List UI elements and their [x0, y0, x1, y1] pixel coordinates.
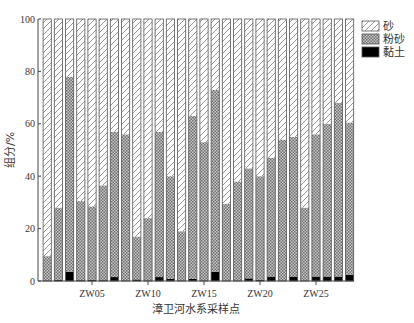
bar-ZW10 — [144, 19, 152, 281]
legend-label-sand: 砂 — [383, 20, 394, 33]
sand-segment — [222, 19, 230, 204]
bar-ZW09 — [133, 19, 141, 281]
bar-ZW23 — [290, 19, 298, 281]
bar-ZW18 — [234, 19, 242, 281]
sand-segment — [54, 19, 62, 208]
x-tick-label: ZW20 — [247, 288, 273, 299]
sand-segment — [323, 19, 331, 124]
legend-label-silt: 粉砂 — [383, 33, 405, 46]
bar-ZW17 — [222, 19, 230, 281]
sand-segment — [346, 19, 354, 122]
bar-ZW01 — [43, 19, 51, 281]
clay-segment — [290, 277, 298, 281]
y-tick-label: 60 — [25, 118, 35, 129]
x-tick-label: ZW15 — [191, 288, 217, 299]
sand-segment — [301, 19, 309, 208]
sand-segment — [122, 19, 130, 134]
sand-segment — [110, 19, 118, 132]
clay-segment — [334, 277, 342, 281]
bar-ZW22 — [278, 19, 286, 281]
sand-segment — [334, 19, 342, 103]
silt-segment — [222, 204, 230, 281]
silt-segment — [312, 134, 320, 276]
sand-segment — [155, 19, 163, 132]
sand-segment — [43, 19, 51, 256]
silt-segment — [278, 140, 286, 281]
bar-ZW15 — [200, 19, 208, 281]
silt-segment — [66, 77, 74, 272]
y-axis-title: 组分/% — [3, 132, 17, 168]
bar-ZW20 — [256, 19, 264, 281]
x-tick-label: ZW25 — [303, 288, 329, 299]
silt-segment — [178, 231, 186, 280]
silt-segment — [133, 236, 141, 279]
silt-segment — [200, 142, 208, 281]
clay-pattern-swatch — [362, 47, 379, 57]
silt-segment — [43, 256, 51, 281]
sand-segment — [211, 19, 219, 90]
silt-segment — [267, 158, 275, 277]
silt-segment — [234, 181, 242, 281]
legend: 砂 粉砂 黏土 — [362, 20, 405, 59]
bar-ZW06 — [99, 19, 107, 281]
sand-segment — [267, 19, 275, 158]
bar-ZW24 — [301, 19, 309, 281]
legend-item-silt: 粉砂 — [362, 33, 405, 46]
silt-segment — [211, 90, 219, 272]
silt-pattern-swatch — [362, 34, 379, 44]
silt-segment — [245, 168, 253, 278]
clay-segment — [312, 277, 320, 281]
bar-ZW27 — [334, 19, 342, 281]
bar-ZW13 — [178, 19, 186, 281]
silt-segment — [77, 201, 85, 280]
sand-segment — [166, 19, 174, 176]
x-tick-label: ZW10 — [135, 288, 161, 299]
silt-segment — [256, 176, 264, 279]
clay-segment — [110, 277, 118, 281]
silt-segment — [166, 176, 174, 279]
sand-segment — [256, 19, 264, 176]
x-tick-label: ZW05 — [79, 288, 105, 299]
clay-segment — [346, 275, 354, 281]
legend-item-sand: 砂 — [362, 20, 394, 33]
silt-segment — [189, 116, 197, 279]
sand-segment — [234, 19, 242, 181]
x-axis-title: 漳卫河水系采样点 — [152, 302, 240, 316]
silt-segment — [122, 134, 130, 281]
clay-segment — [66, 272, 74, 281]
bar-ZW08 — [122, 19, 130, 281]
sand-segment — [312, 19, 320, 134]
bar-ZW21 — [267, 19, 275, 281]
bar-ZW25 — [312, 19, 320, 281]
bar-ZW02 — [54, 19, 62, 281]
sand-pattern-swatch — [362, 21, 379, 31]
bar-ZW28 — [346, 19, 354, 281]
y-tick-label: 80 — [25, 66, 35, 77]
bar-ZW26 — [323, 19, 331, 281]
silt-segment — [346, 122, 354, 274]
silt-segment — [334, 103, 342, 277]
sand-segment — [77, 19, 85, 201]
bar-ZW05 — [88, 19, 96, 281]
silt-segment — [99, 185, 107, 280]
y-tick-label: 0 — [30, 276, 35, 287]
sand-segment — [133, 19, 141, 236]
silt-segment — [54, 208, 62, 280]
y-tick-label: 100 — [20, 14, 35, 25]
bar-ZW04 — [77, 19, 85, 281]
sand-segment — [178, 19, 186, 231]
plot-area: 020406080100ZW05ZW10ZW15ZW20ZW25 — [20, 14, 354, 300]
bar-ZW16 — [211, 19, 219, 281]
y-tick-label: 20 — [25, 223, 35, 234]
bar-ZW11 — [155, 19, 163, 281]
sand-segment — [245, 19, 253, 168]
silt-segment — [110, 132, 118, 277]
sand-segment — [99, 19, 107, 185]
sand-segment — [66, 19, 74, 77]
silt-segment — [88, 206, 96, 279]
silt-segment — [301, 208, 309, 281]
bar-ZW07 — [110, 19, 118, 281]
clay-segment — [323, 277, 331, 281]
silt-segment — [323, 124, 331, 277]
clay-segment — [155, 277, 163, 281]
